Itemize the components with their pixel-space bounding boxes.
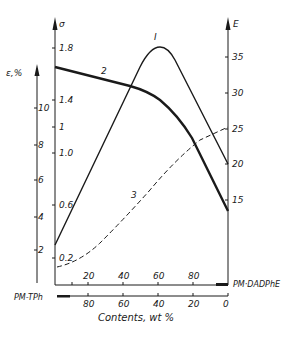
top-x-tick-label: 60 [153,271,165,281]
sigma-tick-label: 1.8 [59,43,74,53]
curve-1-label: I [154,32,157,42]
arrow-up-icon [35,64,40,76]
sigma-tick-label: 1.4 [59,95,74,105]
bottom-x-tick-label: 40 [153,299,165,309]
sigma-tick-label: 1.0 [59,148,74,158]
E-tick-label: 30 [232,88,244,98]
composition-properties-chart: ε,% 108642 σ 1.81.411.00.60.2 E 35302520… [0,0,293,338]
E-tick-label: 25 [232,124,244,134]
E-axis-label: E [233,19,239,29]
curve-3-elongation [57,127,228,267]
curve-3-label: 3 [131,190,137,200]
epsilon-axis: ε,% 108642 [6,64,50,283]
epsilon-tick-label: 8 [38,140,44,150]
top-x-tick-label: 20 [83,271,95,281]
sigma-axis-label: σ [59,19,65,29]
x-axis-pm-dadphe: 20406080 PM·DADPhE [55,271,281,289]
x-axis-title: Contents, wt % [98,312,174,323]
E-tick-label: 20 [232,159,244,169]
sigma-tick-label: 1 [59,122,65,132]
epsilon-tick-label: 10 [38,103,50,113]
bottom-x-tick-label: 60 [118,299,130,309]
x-axis-pm-tph: 806040200 PM-TPh Contents, wt % [14,293,229,323]
curve-2-label: 2 [101,66,107,76]
top-x-tick-label: 40 [118,271,130,281]
bottom-x-tick-label: 0 [223,299,229,309]
curve-1-modulus [55,47,228,245]
bottom-x-tick-label: 80 [83,299,95,309]
epsilon-tick-label: 6 [38,175,44,185]
pm-tph-label: PM-TPh [14,293,43,302]
arrow-up-icon [53,17,58,30]
arrow-up-icon [226,17,231,30]
epsilon-axis-label: ε,% [6,68,22,78]
bottom-x-tick-label: 20 [188,299,200,309]
epsilon-tick-label: 2 [38,245,44,255]
sigma-tick-label: 0.2 [59,253,74,263]
sigma-tick-label: 0.6 [59,200,74,210]
E-tick-label: 35 [232,52,244,62]
top-x-tick-label: 80 [188,271,200,281]
E-axis: E 3530252015 [225,17,244,285]
pm-dadphe-label: PM·DADPhE [233,280,281,289]
epsilon-tick-label: 4 [38,212,44,222]
E-tick-label: 15 [232,195,244,205]
